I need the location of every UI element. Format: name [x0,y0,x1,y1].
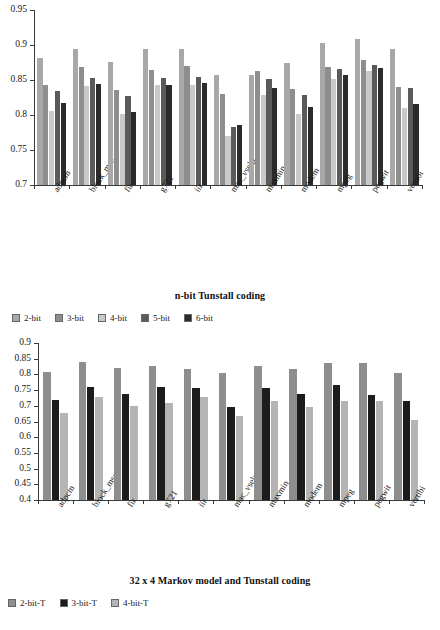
legend-item[interactable]: 3-bit-T [60,598,98,608]
x-tick-mark [351,185,352,189]
bar [200,397,208,500]
bar-group [320,10,348,185]
bar [202,83,207,185]
y-tick-label: 0.9 [0,40,27,50]
bar [227,407,235,500]
bar [254,366,262,500]
bar [337,69,342,185]
bar [320,43,325,185]
bar [184,369,192,500]
legend-label: 6-bit [196,313,213,323]
plot-area-top: 0.70.750.80.850.90.95adpcmblock_msefirg7… [0,0,440,240]
bar-group [390,10,418,185]
bar [219,373,227,500]
chart-legend-bottom: 2-bit-T3-bit-T4-bit-T [8,598,163,608]
legend-swatch-icon [55,314,63,322]
bar [79,67,84,185]
legend-swatch-icon [111,599,119,607]
x-tick-mark [108,500,109,504]
bar [331,79,336,185]
bar [122,394,130,500]
bar [403,401,411,500]
y-tick-label: 0.45 [0,479,31,489]
bar [90,78,95,185]
x-tick-mark [38,500,39,504]
bar [166,85,171,185]
y-tick-label: 0.85 [0,354,31,364]
bar-group [43,343,67,500]
legend-item[interactable]: 4-bit [98,313,127,323]
chart-legend-top: 2-bit3-bit4-bit5-bit6-bit [12,313,227,323]
legend-label: 5-bit [153,313,170,323]
bar [84,86,89,185]
bar [125,96,130,185]
legend-swatch-icon [184,314,192,322]
y-tick-mark [34,484,38,485]
bar-group [394,343,418,500]
legend-label: 2-bit [24,313,41,323]
bar [149,366,157,500]
bar [190,85,195,185]
bar [290,89,295,185]
legend-swatch-icon [60,599,68,607]
legend-item[interactable]: 3-bit [55,313,84,323]
bar [296,114,301,185]
bar-group [219,343,243,500]
bar [355,39,360,185]
y-tick-mark [30,80,34,81]
y-tick-mark [34,469,38,470]
bar [55,91,60,185]
x-tick-mark [34,185,35,189]
bar [368,395,376,501]
y-tick-mark [30,150,34,151]
bar-group [184,343,208,500]
y-tick-mark [34,390,38,391]
bar [372,65,377,185]
bar-group [114,343,138,500]
bar [324,363,332,500]
bar [52,400,60,500]
y-tick-label: 0.55 [0,448,31,458]
legend-item[interactable]: 5-bit [141,313,170,323]
bar [179,49,184,186]
legend-item[interactable]: 2-bit [12,313,41,323]
x-tick-mark [175,185,176,189]
legend-swatch-icon [141,314,149,322]
bar-group [359,343,383,500]
bar [266,79,271,185]
bar [343,75,348,185]
bar [359,363,367,500]
legend-label: 3-bit [67,313,84,323]
y-tick-label: 0.75 [0,145,27,155]
bar [155,85,160,185]
legend-item[interactable]: 2-bit-T [8,598,46,608]
y-tick-label: 0.85 [0,75,27,85]
bar [249,75,254,185]
chart-title-top: n-bit Tunstall coding [0,290,440,301]
bar-group [214,10,242,185]
legend-item[interactable]: 6-bit [184,313,213,323]
bar [390,49,395,185]
bar [361,60,366,185]
bar [261,95,266,185]
y-tick-label: 0.8 [0,110,27,120]
x-tick-mark [143,500,144,504]
x-tick-mark [319,500,320,504]
legend-label: 4-bit [110,313,127,323]
bar [143,49,148,185]
bar [341,401,349,500]
chart-title-bottom: 32 x 4 Markov model and Tunstall coding [0,575,440,586]
x-tick-mark [316,185,317,189]
bar [333,385,341,500]
chart-markov-tunstall: 0.40.450.50.550.60.650.70.750.80.850.9ad… [0,335,440,630]
x-tick-mark [69,185,70,189]
x-tick-mark [105,185,106,189]
y-tick-label: 0.95 [0,5,27,15]
legend-swatch-icon [12,314,20,322]
y-tick-label: 0.7 [0,180,27,190]
legend-item[interactable]: 4-bit-T [111,598,149,608]
y-tick-label: 0.75 [0,385,31,395]
x-tick-mark [284,500,285,504]
y-tick-mark [34,422,38,423]
x-tick-mark [210,185,211,189]
